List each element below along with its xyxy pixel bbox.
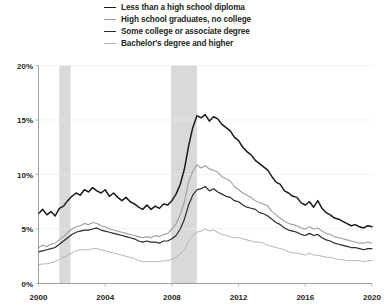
chart-plot-area: 0%5%10%15%20% 200020042008201220162020 [0, 0, 389, 308]
y-tick-label-20: 20% [17, 62, 33, 71]
x-tick-label-2008: 2008 [163, 293, 181, 302]
x-tick-label-2000: 2000 [30, 293, 48, 302]
y-tick-label-0: 0% [21, 280, 33, 289]
y-axis-tick-labels: 0%5%10%15%20% [17, 62, 33, 289]
gridlines-group [39, 66, 373, 230]
series-line-2 [39, 186, 373, 251]
axes-group [36, 66, 373, 287]
x-tick-label-2012: 2012 [230, 293, 248, 302]
series-line-1 [39, 165, 373, 248]
series-line-0 [39, 115, 373, 228]
series-line-3 [39, 229, 373, 265]
x-tick-label-2020: 2020 [363, 293, 381, 302]
series-lines-group [39, 115, 373, 265]
x-tick-label-2016: 2016 [296, 293, 314, 302]
x-axis-tick-labels: 200020042008201220162020 [30, 293, 382, 302]
unemployment-rate-by-education-chart: Less than a high school diploma High sch… [0, 0, 389, 308]
y-tick-label-15: 15% [17, 116, 33, 125]
y-tick-label-10: 10% [17, 171, 33, 180]
x-tick-label-2004: 2004 [96, 293, 114, 302]
y-tick-label-5: 5% [21, 225, 33, 234]
